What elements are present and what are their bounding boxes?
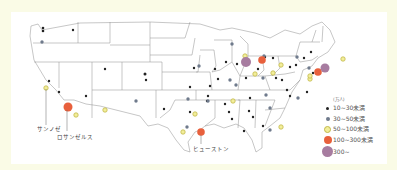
- dots-30-50: [40, 40, 310, 131]
- dots-100-300: [64, 56, 322, 136]
- city-label-los-angeles: ロサンゼルス: [57, 133, 93, 141]
- legend-label: 300~: [333, 147, 349, 157]
- city-label-san-jose: サンノゼ: [37, 125, 61, 133]
- legend: (万人) 10~30未満 30~50未満 50~100未満 100~300未満 …: [322, 96, 373, 158]
- yellow-circle-icon: [324, 126, 331, 133]
- legend-item-30-50: 30~50未満: [322, 114, 373, 125]
- grey-dot-icon: [326, 117, 330, 121]
- legend-item-300-plus: 300~: [322, 145, 373, 158]
- orange-circle-icon: [324, 136, 332, 144]
- dots-50-100: [44, 54, 345, 134]
- black-dot-icon: [326, 107, 329, 110]
- legend-label: 30~50未満: [333, 114, 365, 124]
- legend-item-10-30: 10~30未満: [322, 103, 373, 114]
- legend-label: 10~30未満: [333, 103, 365, 113]
- legend-label: 50~100未満: [333, 124, 369, 134]
- purple-circle-icon: [322, 146, 333, 157]
- legend-unit: (万人): [333, 96, 373, 103]
- legend-item-50-100: 50~100未満: [322, 124, 373, 135]
- legend-label: 100~300未満: [333, 135, 373, 145]
- city-label-houston: ヒューストン: [193, 145, 229, 153]
- dots-10-30: [42, 27, 314, 133]
- legend-item-100-300: 100~300未満: [322, 135, 373, 146]
